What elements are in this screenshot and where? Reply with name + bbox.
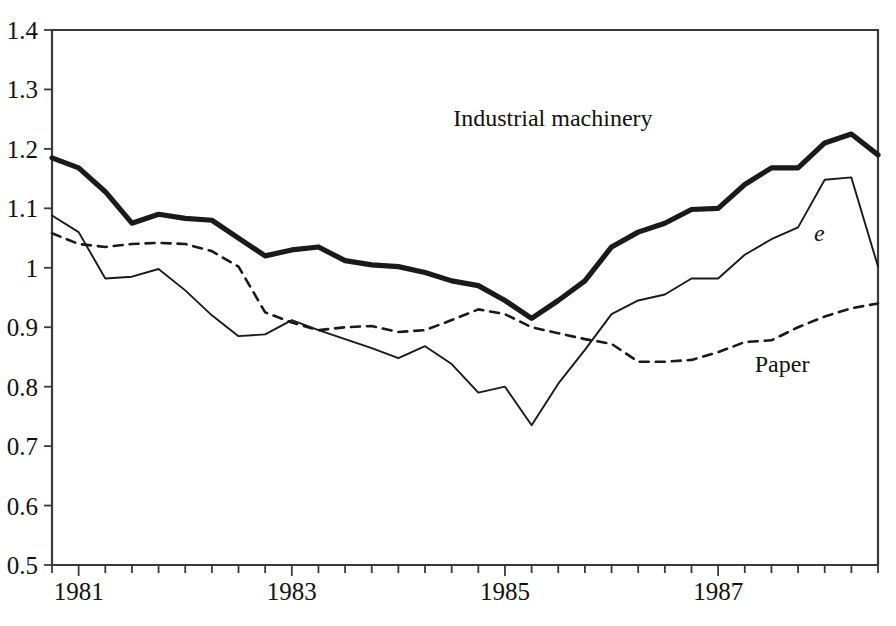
y-tick-label: 0.9 xyxy=(7,314,38,341)
chart-figure: 1.41.31.21.110.90.80.70.60.5 19811983198… xyxy=(0,0,896,626)
plot-background xyxy=(0,0,896,626)
y-tick-label: 0.7 xyxy=(7,433,38,460)
y-tick-label: 1.1 xyxy=(7,195,38,222)
y-tick-label: 1.2 xyxy=(7,136,38,163)
y-tick-label: 1 xyxy=(26,255,39,282)
y-tick-label: 1.3 xyxy=(7,76,38,103)
x-tick-label: 1981 xyxy=(54,578,104,605)
y-tick-label: 1.4 xyxy=(7,17,39,44)
y-tick-label: 0.8 xyxy=(7,374,38,401)
series-label-industrial-machinery: Industrial machinery xyxy=(453,105,652,131)
x-tick-label: 1985 xyxy=(480,578,530,605)
chart-canvas: 1.41.31.21.110.90.80.70.60.5 19811983198… xyxy=(0,0,896,626)
y-tick-label: 0.5 xyxy=(7,552,38,579)
x-tick-label: 1987 xyxy=(693,578,743,605)
x-tick-label: 1983 xyxy=(267,578,317,605)
series-label-paper: Paper xyxy=(755,351,810,377)
y-tick-label: 0.6 xyxy=(7,493,38,520)
series-label-e: e xyxy=(814,220,825,246)
